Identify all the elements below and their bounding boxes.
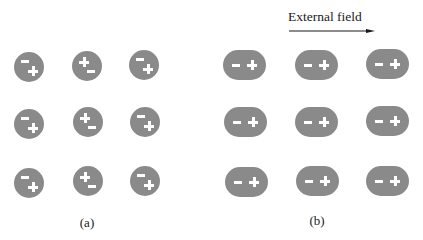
plus-sign-icon (79, 57, 89, 67)
minus-sign-icon (21, 176, 29, 179)
plus-sign-icon (390, 59, 400, 69)
molecule-a-r2-c3 (130, 107, 160, 137)
minus-sign-icon (375, 180, 383, 183)
minus-sign-icon (233, 121, 241, 124)
molecule-a-r3-c1 (14, 168, 44, 198)
plus-sign-icon (28, 182, 38, 192)
molecule-a-r2-c2 (73, 107, 103, 137)
molecule-b-r1-c2 (295, 50, 338, 80)
plus-sign-icon (249, 177, 259, 187)
minus-sign-icon (375, 63, 383, 66)
minus-sign-icon (234, 181, 242, 184)
molecule-a-r1-c1 (14, 52, 44, 82)
plus-sign-icon (144, 121, 154, 131)
plus-sign-icon (319, 117, 329, 127)
molecule-a-r1-c3 (129, 50, 159, 80)
minus-sign-icon (87, 70, 95, 73)
molecule-b-r2-c3 (366, 106, 409, 136)
molecule-b-r1-c3 (366, 49, 409, 79)
molecule-b-r1-c1 (223, 50, 266, 80)
plus-sign-icon (320, 176, 330, 186)
plus-sign-icon (390, 176, 400, 186)
molecule-a-r3-c3 (130, 166, 160, 196)
plus-sign-icon (28, 66, 38, 76)
molecule-a-r3-c2 (73, 166, 103, 196)
plus-sign-icon (80, 172, 90, 182)
external-field-label: External field (288, 9, 362, 25)
plus-sign-icon (28, 123, 38, 133)
molecule-b-r3-c1 (225, 167, 268, 197)
molecule-a-r1-c2 (72, 51, 102, 81)
panel-a-label: (a) (80, 215, 94, 231)
plus-sign-icon (143, 64, 153, 74)
minus-sign-icon (137, 115, 145, 118)
molecule-a-r2-c1 (14, 109, 44, 139)
field-arrow-icon (289, 29, 375, 37)
plus-sign-icon (319, 60, 329, 70)
minus-sign-icon (232, 64, 240, 67)
molecule-b-r2-c1 (224, 107, 267, 137)
minus-sign-icon (88, 185, 96, 188)
plus-sign-icon (144, 180, 154, 190)
minus-sign-icon (136, 58, 144, 61)
plus-sign-icon (248, 117, 258, 127)
minus-sign-icon (304, 121, 312, 124)
molecule-b-r3-c3 (366, 166, 409, 196)
plus-sign-icon (80, 113, 90, 123)
minus-sign-icon (88, 126, 96, 129)
minus-sign-icon (304, 64, 312, 67)
panel-b-label: (b) (309, 213, 324, 229)
minus-sign-icon (375, 120, 383, 123)
minus-sign-icon (21, 117, 29, 120)
plus-sign-icon (247, 60, 257, 70)
minus-sign-icon (137, 174, 145, 177)
plus-sign-icon (390, 116, 400, 126)
molecule-b-r3-c2 (296, 166, 339, 196)
minus-sign-icon (21, 60, 29, 63)
molecule-b-r2-c2 (295, 107, 338, 137)
minus-sign-icon (305, 180, 313, 183)
